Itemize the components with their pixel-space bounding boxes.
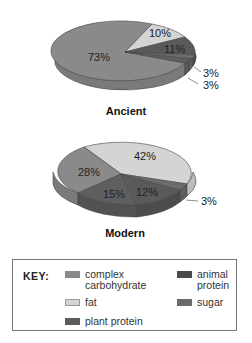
legend-label-sugar: sugar — [197, 297, 223, 308]
legend-label-fat: fat — [85, 297, 97, 308]
legend-item-complex-carbohydrate: complex carbohydrate — [65, 269, 146, 291]
legend-swatch-fat — [65, 299, 80, 306]
modern-label-carb: 28% — [78, 166, 100, 178]
ancient-label-plant: 3% — [203, 79, 219, 91]
modern-title: Modern — [105, 227, 145, 239]
modern-leader-sugar — [186, 200, 198, 201]
modern-label-fat: 42% — [134, 150, 156, 162]
legend-label-carb: complex carbohydrate — [85, 269, 146, 291]
ancient-leader-sugar — [194, 67, 201, 72]
legend-swatch-plant — [65, 318, 80, 325]
legend-label-animal: animal protein — [197, 269, 229, 291]
ancient-label-carb: 73% — [88, 51, 110, 63]
legend: KEY: complex carbohydrate fat plant prot… — [12, 259, 237, 331]
ancient-label-sugar: 3% — [203, 67, 219, 79]
legend-swatch-carb — [65, 271, 80, 278]
legend-item-fat: fat — [65, 297, 97, 308]
modern-label-sugar: 3% — [201, 195, 217, 207]
legend-item-animal-protein: animal protein — [177, 269, 229, 291]
legend-item-sugar: sugar — [177, 297, 223, 308]
modern-label-animal: 12% — [136, 186, 158, 198]
legend-label-carb-line2: carbohydrate — [85, 279, 146, 291]
ancient-label-animal: 11% — [164, 43, 185, 55]
legend-label-plant: plant protein — [85, 316, 143, 327]
modern-pie: 42% 28% 15% 12% 3% Modern — [53, 142, 217, 239]
legend-label-animal-line2: protein — [197, 279, 229, 291]
legend-swatch-sugar — [177, 299, 192, 306]
modern-label-plant: 15% — [103, 188, 125, 200]
legend-item-plant-protein: plant protein — [65, 316, 143, 327]
ancient-label-fat: 10% — [149, 27, 171, 39]
ancient-pie: 73% 10% 11% 3% 3% Ancient — [51, 21, 219, 117]
ancient-title: Ancient — [106, 105, 147, 117]
legend-title: KEY: — [23, 270, 49, 282]
ancient-leader-plant — [188, 78, 198, 84]
legend-swatch-animal — [177, 271, 192, 278]
